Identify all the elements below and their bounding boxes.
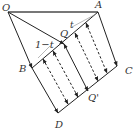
dashed-arrow-3: [75, 33, 98, 81]
label-Qprime: Q': [88, 93, 99, 103]
vector-OB: [8, 12, 32, 68]
label-C: C: [125, 66, 133, 76]
label-O: O: [2, 3, 10, 13]
label-A: A: [95, 0, 102, 10]
label-t: t: [70, 21, 74, 30]
diagram: O A Q t 1−t B C Q' D: [0, 0, 140, 136]
label-Q: Q: [60, 29, 68, 39]
dashed-arrow-1: [43, 59, 68, 104]
t-label-leader: [72, 14, 96, 27]
dashed-arrow-2: [53, 51, 78, 97]
vector-QQprime: [64, 44, 88, 91]
label-1-minus-t: 1−t: [35, 40, 54, 50]
vector-BD: [32, 68, 58, 113]
dashed-arrow-4: [86, 23, 107, 73]
label-B: B: [19, 64, 26, 74]
label-D: D: [55, 120, 63, 130]
